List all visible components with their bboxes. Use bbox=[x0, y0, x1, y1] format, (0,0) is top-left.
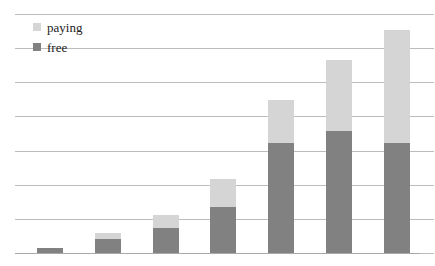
legend-item-paying[interactable]: paying bbox=[33, 17, 82, 37]
bar-segment-paying[interactable] bbox=[326, 60, 352, 131]
axis-tick bbox=[420, 82, 434, 83]
bar-segment-free[interactable] bbox=[326, 131, 352, 253]
bar-segment-free[interactable] bbox=[268, 143, 294, 253]
axis-tick bbox=[420, 116, 434, 117]
legend-swatch-paying-icon bbox=[33, 23, 41, 31]
bar-group[interactable] bbox=[210, 179, 236, 253]
bar-segment-free[interactable] bbox=[210, 207, 236, 253]
bar-segment-free[interactable] bbox=[153, 228, 179, 253]
legend-swatch-free-icon bbox=[33, 43, 41, 51]
bar-segment-free[interactable] bbox=[384, 143, 410, 253]
axis-tick bbox=[420, 48, 434, 49]
bar-group[interactable] bbox=[153, 215, 179, 253]
legend-item-free[interactable]: free bbox=[33, 37, 82, 57]
bar-segment-free[interactable] bbox=[37, 248, 63, 253]
legend-label-free: free bbox=[47, 41, 67, 54]
bar-segment-paying[interactable] bbox=[153, 215, 179, 228]
legend-label-paying: paying bbox=[47, 21, 82, 34]
stacked-bar-chart: paying free bbox=[0, 0, 435, 266]
bar-segment-paying[interactable] bbox=[210, 179, 236, 207]
axis-tick bbox=[420, 14, 434, 15]
bar-group[interactable] bbox=[326, 60, 352, 253]
bar-group[interactable] bbox=[37, 248, 63, 253]
bar-segment-paying[interactable] bbox=[268, 100, 294, 143]
axis-tick bbox=[420, 185, 434, 186]
bar-segment-paying[interactable] bbox=[384, 30, 410, 143]
axis-tick bbox=[420, 219, 434, 220]
axis-baseline bbox=[15, 253, 420, 254]
axis-tick bbox=[420, 253, 434, 254]
bar-segment-free[interactable] bbox=[95, 239, 121, 253]
bar-group[interactable] bbox=[268, 100, 294, 253]
bar-group[interactable] bbox=[95, 233, 121, 253]
chart-legend: paying free bbox=[33, 17, 82, 57]
bar-group[interactable] bbox=[384, 30, 410, 253]
axis-tick bbox=[420, 151, 434, 152]
